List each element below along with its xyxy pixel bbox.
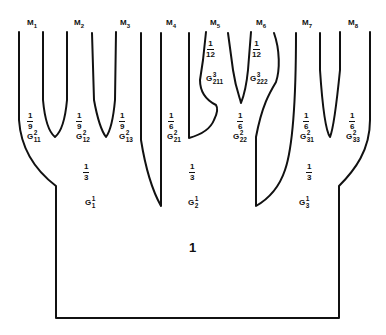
leaf-label-m6: M6 — [256, 19, 266, 29]
leaf-label-m1: M1 — [27, 19, 37, 29]
leaf-label-m4: M4 — [166, 19, 176, 29]
node-label-g211: G3211 — [206, 75, 223, 85]
weight-g211: 112 — [206, 40, 215, 59]
node-label-g222: G3222 — [250, 75, 268, 85]
node-label-g21: G221 — [167, 133, 181, 143]
leaf-label-m8: M8 — [348, 19, 358, 29]
node-label-g22: G222 — [233, 133, 247, 143]
notch-g1-g2 — [141, 33, 161, 206]
node-label-g31: G231 — [300, 133, 314, 143]
node-label-g11: G211 — [27, 133, 41, 143]
leaf-label-m3: M3 — [120, 19, 130, 29]
weight-g1: 13 — [83, 163, 89, 182]
node-label-g13: G213 — [119, 133, 133, 143]
node-label-g33: G233 — [346, 133, 360, 143]
weight-g2: 13 — [189, 163, 195, 182]
leaf-label-m5: M5 — [210, 19, 220, 29]
notch-m7-m8 — [320, 32, 340, 137]
node-label-g3: G13 — [299, 199, 309, 209]
weight-g11: 19 — [27, 112, 33, 131]
leaf-label-m2: M2 — [74, 19, 84, 29]
weight-g222: 112 — [252, 40, 261, 59]
node-label-g12: G212 — [76, 133, 90, 143]
root-label: 1 — [189, 240, 196, 255]
weight-g3: 13 — [306, 163, 312, 182]
notch-m1-m2 — [43, 32, 67, 137]
weight-g12: 19 — [76, 112, 82, 131]
node-label-g1: G11 — [85, 199, 95, 209]
notch-m2-m3 — [92, 32, 116, 137]
leaf-label-m7: M7 — [302, 19, 312, 29]
node-label-g2: G12 — [188, 199, 198, 209]
weight-g13: 19 — [119, 112, 125, 131]
notch-m5-m6 — [228, 32, 251, 103]
notch-g2-g3 — [256, 33, 296, 206]
